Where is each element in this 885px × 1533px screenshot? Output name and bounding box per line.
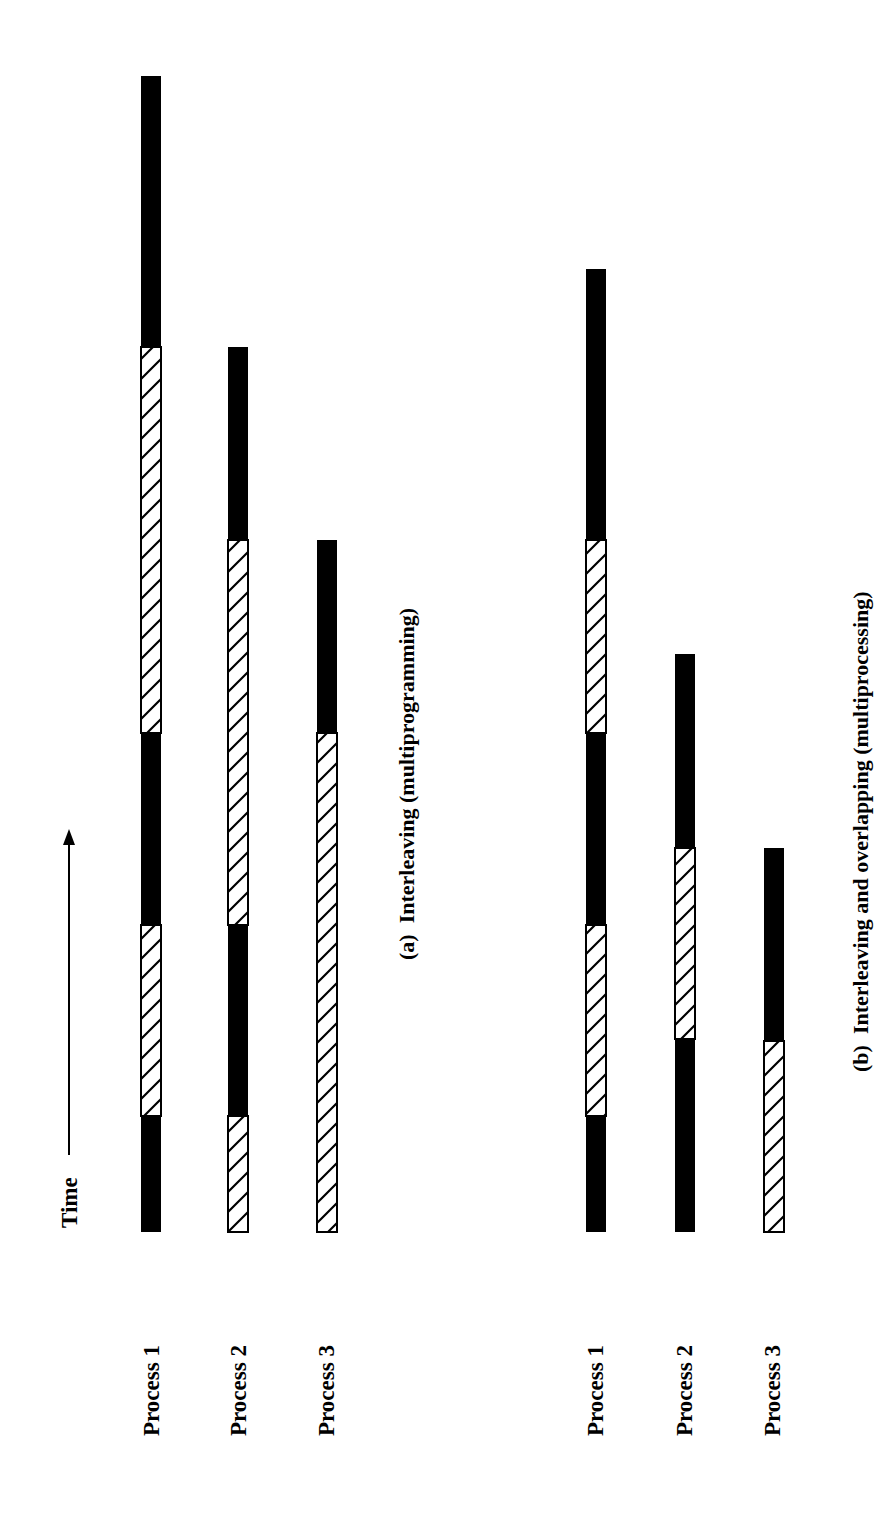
panel-b-process-2-bar — [675, 654, 695, 1232]
time-axis-label: Time — [58, 1177, 81, 1228]
blocked-segment — [675, 848, 695, 1039]
panel-a-process-2-label: Process 2 — [227, 1345, 250, 1436]
blocked-segment — [141, 347, 161, 733]
panel-a-process-3-label: Process 3 — [315, 1345, 338, 1436]
panel-a-process-3-bar — [317, 540, 337, 1232]
panel-b-process-3-bar — [764, 848, 784, 1232]
blocked-segment — [228, 1116, 248, 1232]
panel-b-process-1-label: Process 1 — [584, 1345, 607, 1436]
running-segment — [141, 1116, 161, 1232]
arrowhead-icon — [63, 829, 75, 845]
running-segment — [228, 925, 248, 1116]
panel-b-process-1-bar — [586, 269, 606, 1232]
running-segment — [141, 76, 161, 347]
running-segment — [586, 733, 606, 925]
panel-b-caption: (b) Interleaving and overlapping (multip… — [850, 591, 872, 1072]
panel-a-process-1-bar — [141, 76, 161, 1232]
blocked-segment — [317, 733, 337, 1232]
panel-a-caption: (a) Interleaving (multiprogramming) — [396, 608, 418, 960]
running-segment — [586, 1116, 606, 1232]
running-segment — [675, 1039, 695, 1232]
running-segment — [317, 540, 337, 733]
panel-b-process-2-label: Process 2 — [673, 1345, 696, 1436]
panel-a-process-1-label: Process 1 — [140, 1345, 163, 1436]
blocked-segment — [228, 540, 248, 925]
running-segment — [764, 848, 784, 1041]
time-axis — [63, 829, 75, 1155]
running-segment — [228, 347, 248, 540]
blocked-segment — [764, 1041, 784, 1232]
running-segment — [586, 269, 606, 540]
process-timeline-figure — [0, 0, 885, 1533]
running-segment — [675, 654, 695, 848]
running-segment — [141, 733, 161, 925]
panel-a-process-2-bar — [228, 347, 248, 1232]
blocked-segment — [141, 925, 161, 1116]
panel-b-process-3-label: Process 3 — [761, 1345, 784, 1436]
blocked-segment — [586, 540, 606, 733]
blocked-segment — [586, 925, 606, 1116]
